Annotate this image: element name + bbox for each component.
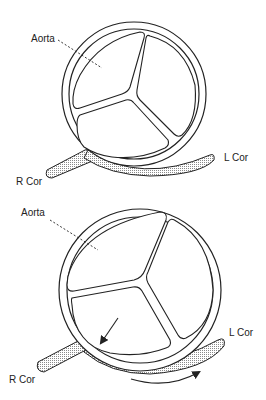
label-aorta-bottom: Aorta [21,207,45,218]
aortic-valve-diagram [0,0,266,400]
label-rcor-top: R Cor [16,176,42,187]
label-lcor-top: L Cor [224,152,248,163]
panel-top [46,22,214,178]
label-rcor-bottom: R Cor [9,374,35,385]
label-lcor-bottom: L Cor [229,327,253,338]
panel-bottom [37,209,224,383]
label-aorta-top: Aorta [31,33,55,44]
